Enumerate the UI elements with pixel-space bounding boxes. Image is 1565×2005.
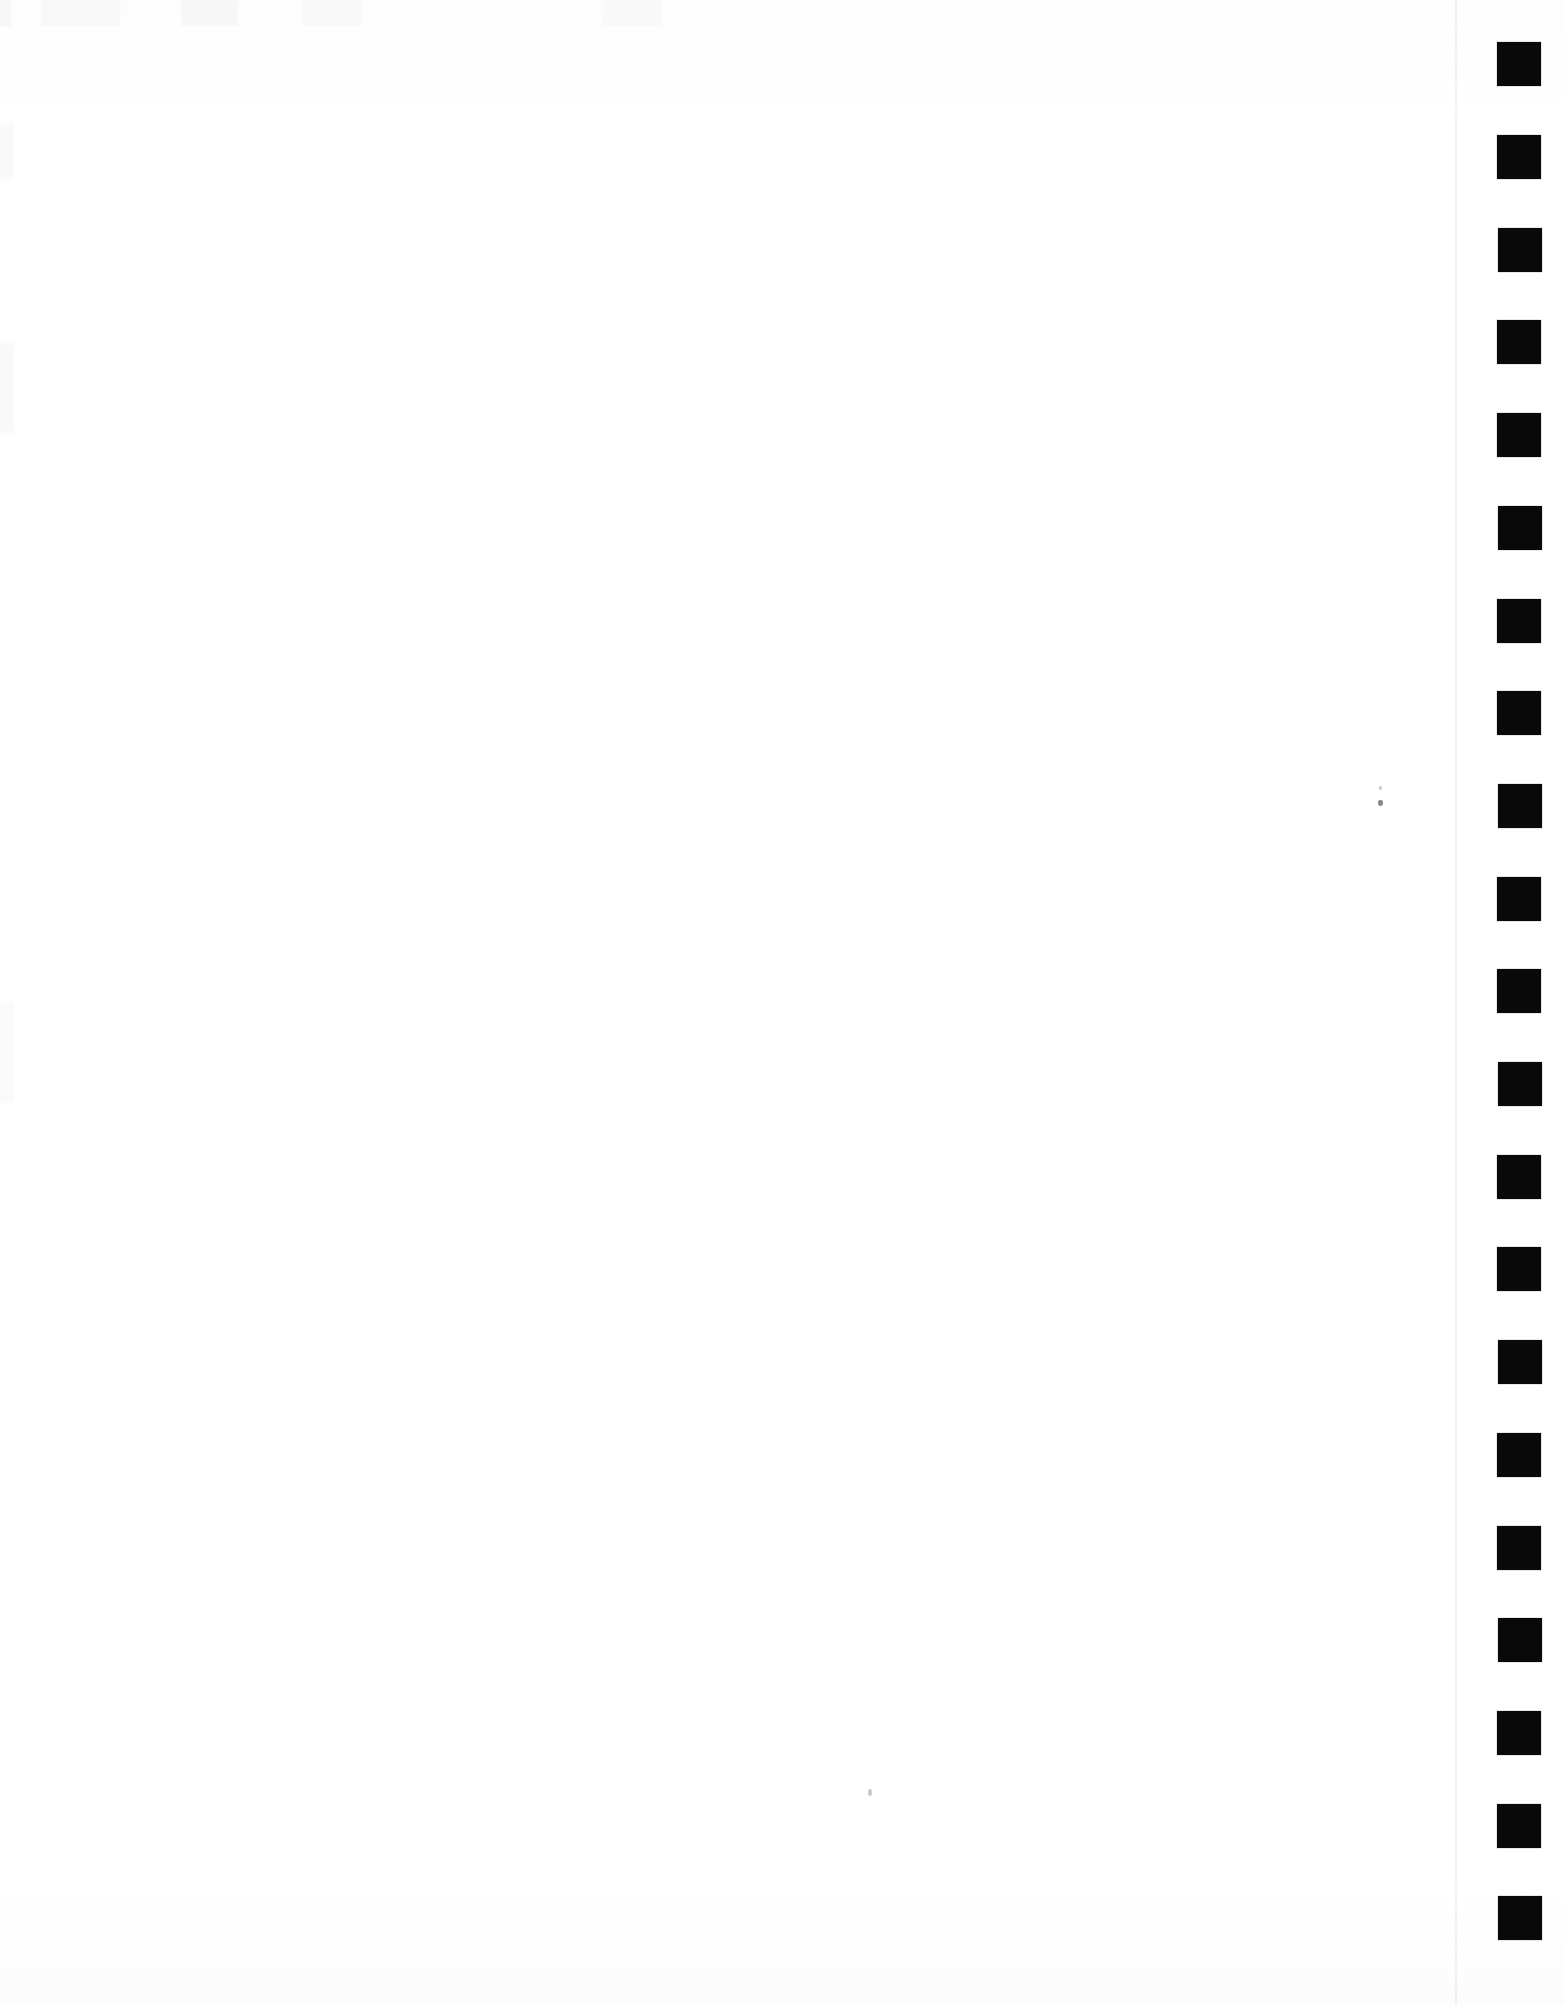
registration-mark <box>1497 1711 1541 1755</box>
registration-mark <box>1497 1526 1541 1570</box>
registration-mark <box>1498 784 1542 828</box>
scanned-page <box>0 0 1565 2005</box>
registration-mark <box>1498 1340 1542 1384</box>
registration-mark <box>1497 1433 1541 1477</box>
registration-mark <box>1497 599 1541 643</box>
registration-mark <box>1498 506 1542 550</box>
registration-mark <box>1497 691 1541 735</box>
registration-mark <box>1497 1804 1541 1848</box>
registration-mark <box>1497 877 1541 921</box>
registration-mark <box>1498 1618 1542 1662</box>
registration-mark <box>1497 969 1541 1013</box>
blank-content-area <box>0 0 1455 2005</box>
registration-mark <box>1498 1896 1542 1940</box>
registration-mark <box>1497 42 1541 86</box>
registration-mark <box>1497 1155 1541 1199</box>
registration-mark <box>1498 228 1542 272</box>
registration-mark <box>1497 1247 1541 1291</box>
registration-mark <box>1498 1062 1542 1106</box>
registration-mark <box>1497 320 1541 364</box>
registration-mark <box>1497 413 1541 457</box>
registration-mark <box>1497 135 1541 179</box>
registration-mark-column <box>1496 0 1544 2005</box>
